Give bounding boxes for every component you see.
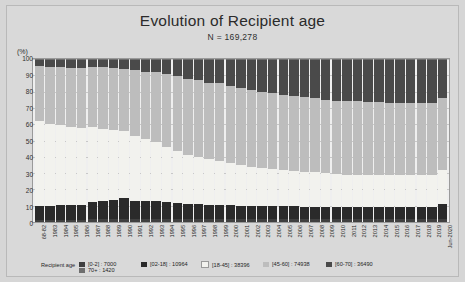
x-axis-tick: 2000 <box>226 225 235 255</box>
x-axis-tick: 1984 <box>55 225 64 255</box>
x-axis-tick-label: Jun-2020 <box>447 225 453 248</box>
legend-item[interactable]: [60-70] : 36490 <box>326 261 373 267</box>
legend-swatch <box>141 262 147 267</box>
y-axis-tick-label: 0 <box>11 220 33 227</box>
x-axis-tick: 1993 <box>151 225 160 255</box>
y-axis-tick-label: 40 <box>11 154 33 161</box>
legend-label: 70+ : 1420 <box>88 267 115 273</box>
x-axis-tick: 2014 <box>375 225 384 255</box>
x-axis-tick: 2003 <box>258 225 267 255</box>
x-axis-tick: 2017 <box>407 225 416 255</box>
legend-label: [45-60] : 74938 <box>272 261 310 267</box>
x-axis-tick: 2016 <box>396 225 405 255</box>
x-axis-tick: 2002 <box>247 225 256 255</box>
x-axis-tick: 1995 <box>172 225 181 255</box>
y-axis-unit-label: (%) <box>17 48 28 55</box>
x-axis-tick: 1986 <box>76 225 85 255</box>
y-axis-tick-label: 20 <box>11 187 33 194</box>
x-axis-tick: Jun-2020 <box>439 225 448 255</box>
x-axis-tick: 68-82 <box>34 225 43 255</box>
x-axis-tick: 1988 <box>98 225 107 255</box>
x-axis-tick: 1994 <box>162 225 171 255</box>
x-axis-tick: 2005 <box>279 225 288 255</box>
legend-swatch <box>263 262 269 267</box>
x-axis-tick: 2013 <box>364 225 373 255</box>
y-axis-tick-label: 80 <box>11 88 33 95</box>
legend-swatch <box>79 262 85 267</box>
legend-label: [18-45] : 38396 <box>212 262 250 268</box>
x-axis-tick: 1985 <box>66 225 75 255</box>
x-axis-tick: 2009 <box>322 225 331 255</box>
legend: [0-2] : 7000[02-18] : 10964[18-45] : 383… <box>41 258 441 280</box>
chart-card: Evolution of Recipient age N = 169,278 (… <box>6 5 459 277</box>
x-axis-tick: 2004 <box>268 225 277 255</box>
y-axis-tick-label: 30 <box>11 171 33 178</box>
x-axis-tick: 1998 <box>204 225 213 255</box>
y-axis-tick-label: 90 <box>11 72 33 79</box>
x-axis-tick: 2006 <box>290 225 299 255</box>
x-axis-tick: 2015 <box>386 225 395 255</box>
legend-label: [60-70] : 36490 <box>335 261 373 267</box>
x-axis-tick: 1990 <box>119 225 128 255</box>
legend-item[interactable]: [45-60] : 74938 <box>263 261 310 267</box>
x-axis-tick: 1992 <box>140 225 149 255</box>
x-axis-tick: 1999 <box>215 225 224 255</box>
x-axis-tick: 2018 <box>418 225 427 255</box>
x-axis: 68-8219831984198519861987198819891990199… <box>32 225 450 255</box>
legend-swatch <box>201 261 209 268</box>
x-axis-tick: 1991 <box>130 225 139 255</box>
y-axis-tick-label: 100 <box>11 55 33 62</box>
x-axis-tick: 1983 <box>44 225 53 255</box>
x-axis-tick: 1997 <box>194 225 203 255</box>
x-axis-tick: 2019 <box>428 225 437 255</box>
x-axis-tick: 2007 <box>300 225 309 255</box>
x-axis-tick: 1987 <box>87 225 96 255</box>
x-axis-tick: 2008 <box>311 225 320 255</box>
chart-subtitle: N = 169,278 <box>7 32 458 42</box>
y-axis-tick-label: 60 <box>11 121 33 128</box>
y-axis-tick-label: 50 <box>11 138 33 145</box>
x-axis-tick: 2011 <box>343 225 352 255</box>
legend-label: [02-18] : 10964 <box>150 261 188 267</box>
legend-item[interactable]: [18-45] : 38396 <box>201 261 250 268</box>
legend-item[interactable]: 70+ : 1420 <box>79 267 115 273</box>
legend-swatch <box>79 268 85 273</box>
y-axis-tick-label: 70 <box>11 105 33 112</box>
x-axis-tick: 2012 <box>354 225 363 255</box>
y-axis: 0102030405060708090100 <box>32 58 450 223</box>
legend-swatch <box>326 262 332 267</box>
legend-item[interactable]: [02-18] : 10964 <box>141 261 188 267</box>
y-axis-tick-label: 10 <box>11 204 33 211</box>
x-axis-tick: 2001 <box>236 225 245 255</box>
x-axis-tick: 1996 <box>183 225 192 255</box>
x-axis-tick: 2010 <box>332 225 341 255</box>
x-axis-tick: 1989 <box>108 225 117 255</box>
chart-title: Evolution of Recipient age <box>7 12 458 30</box>
